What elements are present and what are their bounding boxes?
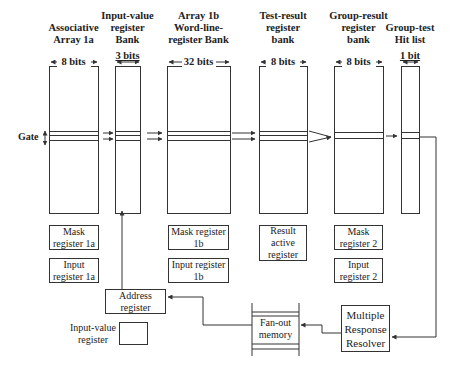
label-line: register — [68, 334, 118, 346]
bit-width-label: 8 bits — [266, 56, 300, 68]
fanout-to-address — [168, 297, 252, 325]
column-header-inval: Input-valueregisterBank — [88, 10, 168, 46]
bit-width-label: 3 bits — [103, 50, 153, 62]
register-label-line: register — [268, 249, 298, 261]
register-label-line: Multiple — [344, 308, 386, 322]
merge-line — [309, 131, 331, 137]
bit-width-label: 8 bits — [342, 56, 376, 68]
register-label-line: Mask — [53, 226, 95, 238]
register-mask-1b: Mask register1b — [168, 225, 229, 250]
register-label-line: Mask register — [171, 226, 226, 238]
register-label-line: active — [268, 237, 298, 249]
header-line: Test-result — [243, 10, 323, 22]
header-line: Group-test — [370, 22, 450, 34]
column-header-hit: Group-testHit list — [370, 22, 450, 46]
input-value-register-label: Input-valueregister — [68, 322, 118, 346]
register-label-line: Input — [53, 259, 95, 271]
header-line: Group-result — [319, 10, 399, 22]
register-label-line: memory — [259, 329, 292, 341]
register-label-line: Result — [268, 225, 298, 237]
register-label-line: 1b — [171, 238, 226, 250]
register-label-line: register 1a — [53, 238, 95, 250]
register-result-active: Resultactiveregister — [259, 225, 307, 261]
register-input-1a: Inputregister 1a — [49, 258, 99, 283]
column-header-arr1b: Array 1bWord-line-register Bank — [159, 10, 239, 46]
array-columns — [49, 62, 420, 214]
label-line: Input-value — [68, 322, 118, 334]
header-line: Word-line- — [159, 22, 239, 34]
bit-width-label: 1 bit — [385, 50, 435, 62]
header-line: bank — [243, 34, 323, 46]
register-label-line: Address — [119, 290, 152, 302]
register-label-line: register 2 — [340, 238, 378, 250]
register-fanout: Fan-outmemory — [252, 312, 299, 346]
register-address: Addressregister — [105, 289, 166, 314]
register-input-1b: Input register1b — [168, 258, 229, 283]
resolver-to-fanout — [301, 325, 341, 333]
register-label-line: Response — [344, 322, 386, 336]
gate-label: Gate — [18, 131, 39, 142]
register-label-line: register — [119, 302, 152, 314]
merge-arrow — [309, 137, 331, 142]
register-label-line: Input — [340, 259, 378, 271]
header-line: register Bank — [159, 34, 239, 46]
bit-width-label: 32 bits — [182, 56, 216, 68]
header-line: Bank — [88, 34, 168, 46]
register-label-line: Resolver — [344, 336, 386, 350]
register-label-line: Input register — [172, 259, 226, 271]
register-label-line: register 2 — [340, 271, 378, 283]
header-line: Hit list — [370, 34, 450, 46]
register-label-line: register 1a — [53, 271, 95, 283]
register-mask-2: Maskregister 2 — [334, 225, 383, 250]
register-mrr: MultipleResponseResolver — [341, 305, 390, 352]
register-input-value-reg — [119, 322, 148, 345]
column-header-test: Test-resultregisterbank — [243, 10, 323, 46]
column-hit — [402, 67, 420, 214]
register-input-2: Inputregister 2 — [334, 258, 383, 283]
header-line: Array 1b — [159, 10, 239, 22]
column-group — [335, 67, 384, 214]
header-line: register — [88, 22, 168, 34]
header-line: register — [243, 22, 323, 34]
register-label-line: Mask — [340, 226, 378, 238]
header-line: Input-value — [88, 10, 168, 22]
register-mask-1a: Maskregister 1a — [49, 225, 99, 250]
register-label-line: 1b — [172, 271, 226, 283]
bit-width-label: 8 bits — [57, 56, 91, 68]
register-label-line: Fan-out — [259, 317, 292, 329]
